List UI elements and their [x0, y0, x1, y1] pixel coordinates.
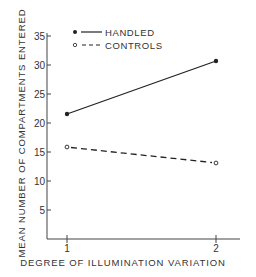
filled-circle-icon: [73, 30, 77, 34]
x-tick-label: 2: [213, 243, 219, 254]
legend-label: HANDLED: [105, 27, 155, 38]
data-point: [214, 59, 218, 63]
y-tick-labels: 35 30 25 20 15 10 5: [34, 31, 46, 216]
y-tick-label: 30: [34, 60, 46, 71]
y-ticks: [47, 36, 51, 210]
legend: HANDLED CONTROLS: [73, 27, 163, 51]
y-tick-label: 15: [34, 147, 46, 158]
y-tick-label: 5: [39, 205, 45, 216]
line-chart: MEAN NUMBER OF COMPARTMENTS ENTERED 35 3…: [0, 0, 256, 277]
y-tick-label: 20: [34, 118, 46, 129]
x-tick-label: 1: [64, 243, 70, 254]
series-handled: [65, 59, 218, 116]
data-point: [65, 145, 69, 149]
y-tick-label: 10: [34, 176, 46, 187]
legend-item-controls: CONTROLS: [73, 40, 162, 51]
open-circle-icon: [73, 43, 76, 46]
series-controls: [65, 145, 218, 165]
y-tick-label: 35: [34, 31, 46, 42]
legend-label: CONTROLS: [105, 40, 163, 51]
x-axis-label: DEGREE OF ILLUMINATION VARIATION: [20, 257, 226, 268]
y-axis-label: MEAN NUMBER OF COMPARTMENTS ENTERED: [16, 8, 27, 257]
legend-item-handled: HANDLED: [73, 27, 155, 38]
data-point: [214, 161, 218, 165]
y-tick-label: 25: [34, 89, 46, 100]
data-point: [65, 112, 69, 116]
